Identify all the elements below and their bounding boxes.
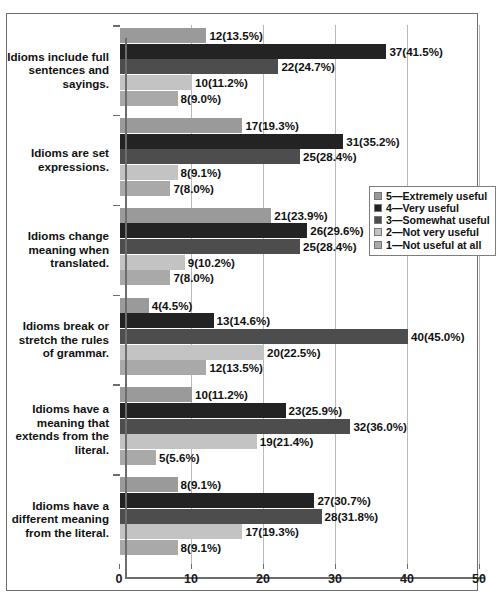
bar	[120, 239, 300, 254]
bar-value-label: 27(30.7%)	[314, 493, 371, 508]
bar-value-label: 19(21.4%)	[257, 434, 314, 449]
chart-figure: 12(13.5%)37(41.5%)22(24.7%)10(11.2%)8(9.…	[0, 0, 497, 605]
category-label: Idioms include full sentences and saying…	[7, 40, 115, 100]
legend-swatch-icon	[374, 216, 382, 224]
x-axis-tick-label: 40	[387, 572, 427, 586]
x-axis-tick	[191, 564, 192, 569]
bar-value-label: 26(29.6%)	[307, 223, 364, 238]
bar-value-label: 7(8.0%)	[170, 181, 214, 196]
gridline	[263, 25, 264, 564]
legend-swatch-icon	[374, 228, 382, 236]
bar-value-label: 25(28.4%)	[300, 149, 357, 164]
legend-label: 2—Not very useful	[386, 226, 479, 238]
legend-swatch-icon	[374, 192, 382, 200]
legend-swatch-icon	[374, 204, 382, 212]
legend-item: 5—Extremely useful	[374, 190, 490, 202]
bar-value-label: 8(9.0%)	[178, 91, 222, 106]
bar-value-label: 25(28.4%)	[300, 239, 357, 254]
legend-item: 1—Not useful at all	[374, 239, 490, 251]
bar-value-label: 8(9.1%)	[178, 477, 222, 492]
bar-value-label: 7(8.0%)	[170, 270, 214, 285]
category-label: Idioms have a meaning that extends from …	[7, 399, 115, 459]
bar	[120, 477, 178, 492]
chart-frame: 12(13.5%)37(41.5%)22(24.7%)10(11.2%)8(9.…	[6, 13, 478, 591]
bar-value-label: 10(11.2%)	[192, 75, 248, 90]
bar-value-label: 37(41.5%)	[386, 44, 443, 59]
bar	[120, 419, 350, 434]
bar	[120, 540, 178, 555]
bar-value-label: 8(9.1%)	[178, 165, 222, 180]
bar	[120, 223, 307, 238]
y-axis-line	[125, 38, 127, 578]
legend-label: 5—Extremely useful	[386, 190, 487, 202]
y-axis-tick	[113, 474, 120, 476]
gridline	[335, 25, 336, 564]
bar-value-label: 28(31.8%)	[322, 509, 379, 524]
bar-value-label: 23(25.9%)	[286, 403, 343, 418]
category-label: Idioms break or stretch the rules of gra…	[7, 309, 115, 369]
legend-item: 4—Very useful	[374, 202, 490, 214]
bar	[120, 149, 300, 164]
category-label: Idioms are set expressions.	[7, 130, 115, 190]
legend-label: 1—Not useful at all	[386, 239, 481, 251]
bar-value-label: 17(19.3%)	[242, 524, 299, 539]
bar	[120, 118, 242, 133]
bar	[120, 255, 185, 270]
legend-label: 4—Very useful	[386, 202, 459, 214]
bar-value-label: 13(14.6%)	[214, 313, 271, 328]
bar-value-label: 12(13.5%)	[206, 28, 263, 43]
legend-item: 3—Somewhat useful	[374, 214, 490, 226]
bar	[120, 345, 264, 360]
category-label: Idioms have a different meaning from the…	[7, 489, 115, 549]
bar-value-label: 32(36.0%)	[350, 419, 407, 434]
bar	[120, 329, 408, 344]
bar	[120, 434, 257, 449]
y-axis-tick	[113, 384, 120, 386]
bar-value-label: 12(13.5%)	[206, 360, 263, 375]
gridline	[407, 25, 408, 564]
bar	[120, 313, 214, 328]
bar-value-label: 40(45.0%)	[408, 329, 465, 344]
bar-value-label: 20(22.5%)	[264, 345, 321, 360]
x-axis-tick	[119, 564, 120, 569]
y-axis-tick	[113, 25, 120, 27]
bar	[120, 270, 170, 285]
legend-swatch-icon	[374, 241, 382, 249]
x-axis-tick-label: 20	[243, 572, 283, 586]
bar-value-label: 5(5.6%)	[156, 450, 200, 465]
bar	[120, 91, 178, 106]
chart-legend: 5—Extremely useful4—Very useful3—Somewha…	[369, 186, 496, 256]
x-axis-tick-label: 50	[459, 572, 497, 586]
category-label: Idioms change meaning when translated.	[7, 220, 115, 280]
bar	[120, 181, 170, 196]
bar-value-label: 22(24.7%)	[278, 59, 335, 74]
bar	[120, 44, 386, 59]
bar	[120, 208, 271, 223]
x-axis-tick-label: 0	[99, 572, 139, 586]
legend-label: 3—Somewhat useful	[386, 214, 490, 226]
bar	[120, 59, 278, 74]
x-axis-tick	[335, 564, 336, 569]
bar	[120, 509, 322, 524]
bar-value-label: 10(11.2%)	[192, 387, 248, 402]
bar-value-label: 9(10.2%)	[185, 255, 235, 270]
legend-item: 2—Not very useful	[374, 227, 490, 239]
y-axis-tick	[113, 115, 120, 117]
x-axis-tick-label: 30	[315, 572, 355, 586]
y-axis-tick	[113, 295, 120, 297]
bar	[120, 387, 192, 402]
bar	[120, 403, 286, 418]
gridline	[479, 25, 480, 564]
bar	[120, 28, 206, 43]
x-axis-tick	[479, 564, 480, 569]
bar-value-label: 17(19.3%)	[242, 118, 299, 133]
bar	[120, 493, 314, 508]
bar	[120, 360, 206, 375]
bar-value-label: 31(35.2%)	[343, 134, 400, 149]
y-axis-tick	[113, 205, 120, 207]
bar	[120, 524, 242, 539]
x-axis-tick-label: 10	[171, 572, 211, 586]
x-axis-tick	[407, 564, 408, 569]
bar-value-label: 21(23.9%)	[271, 208, 328, 223]
bar-value-label: 4(4.5%)	[149, 298, 193, 313]
